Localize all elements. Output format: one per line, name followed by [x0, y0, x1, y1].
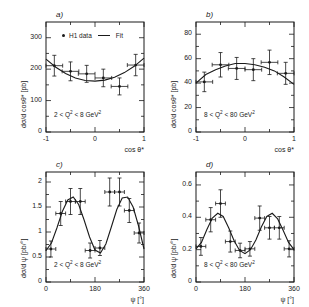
panel-a-data-point [127, 54, 144, 75]
panel-c-ytick: 1 [38, 227, 42, 234]
panel-a-y-axis-title: dσ/d cosθ* [pb] [20, 81, 27, 128]
panel-a-data-point [46, 55, 63, 76]
panel-b-xtick: 1 [292, 135, 296, 142]
panel-c-data-point [105, 178, 115, 206]
panel-c-ytick: 0 [38, 277, 42, 284]
panel-c-y-axis-title: dσ/d ψ [pb/°] [20, 239, 27, 278]
panel-d-label: d) [206, 160, 213, 169]
panel-b-ytick: 60 [184, 54, 192, 61]
panel-d-data-point [225, 231, 235, 252]
legend-fit-label: Fit [116, 32, 123, 39]
panel-d-ytick: 0.2 [182, 245, 192, 252]
panel-b-data-point [212, 53, 229, 77]
panel-c-data-point [46, 241, 56, 257]
panel-d-data-point [265, 216, 275, 239]
panel-c-xtick: 0 [44, 285, 48, 292]
panel-c-label: c) [56, 160, 63, 169]
panel-d-data-point [206, 208, 216, 232]
legend-marker-icon [62, 34, 65, 37]
panel-c-fit-curve [46, 197, 144, 253]
panel-d-ytick: 0 [188, 277, 192, 284]
panel-b-ytick: 40 [184, 78, 192, 85]
panel-a-data-point [95, 69, 112, 87]
panel-a-xtick: 0 [93, 135, 97, 142]
panel-b-ytick: 80 [184, 29, 192, 36]
panel-a-ytick: 300 [30, 33, 42, 40]
panel-d-ytick: 0.6 [182, 180, 192, 187]
panel-b-xtick: 0 [243, 135, 247, 142]
panel-d-xtick: 360 [288, 285, 300, 292]
panel-b-y-axis-title: dσ/d cosθ* [pb] [170, 81, 177, 128]
panel-d-cut-annotation: 8 < Q2 < 80 GeV2 [204, 260, 255, 268]
panel-d-plot [0, 0, 309, 307]
legend: H1 dataFit [62, 32, 123, 39]
panel-c-data-point [134, 223, 144, 243]
panel-a-label: a) [56, 10, 63, 19]
panel-c-data-point [85, 243, 95, 258]
panel-c-data-point [124, 199, 134, 223]
panel-d-data-point [284, 241, 294, 257]
panel-c-ytick: 0.5 [32, 252, 42, 259]
panel-b-ytick: 0 [188, 127, 192, 134]
panel-d-data-point [274, 216, 284, 239]
panel-c-xtick: 180 [89, 285, 101, 292]
panel-a-ytick: 100 [30, 96, 42, 103]
panel-a-data-point [78, 65, 95, 82]
panel-c-ytick: 1.5 [32, 202, 42, 209]
panel-b-data-point [196, 72, 213, 92]
legend-data-label: H1 data [69, 32, 92, 39]
panel-d-data-point [216, 190, 226, 218]
panel-b-fit-curve [196, 64, 294, 85]
legend-line-icon [98, 35, 110, 36]
panel-a-xtick: 1 [142, 135, 146, 142]
panel-c-data-point [75, 189, 85, 215]
panel-a-fit-curve [46, 58, 144, 81]
panel-a-xtick: -1 [43, 135, 49, 142]
panel-c-xtick: 360 [138, 285, 150, 292]
panel-c-data-point [66, 189, 76, 215]
panel-a-x-axis-title: cos θ* [125, 146, 144, 153]
panel-b-data-point [228, 57, 245, 79]
panel-d-ytick: 0.4 [182, 212, 192, 219]
panel-a-cut-annotation: 2 < Q2 < 8 GeV2 [54, 110, 101, 118]
panel-c-data-point [115, 178, 125, 206]
figure-root: 0100200300-101a)2 < Q2 < 8 GeV2dσ/d cosθ… [0, 0, 309, 307]
panel-d-data-point [245, 242, 255, 257]
panel-a-data-point [62, 62, 79, 81]
panel-c-data-point [95, 241, 105, 256]
panel-b-cut-annotation: 8 < Q2 < 80 GeV2 [204, 110, 255, 118]
panel-d-x-axis-title: ψ [°] [280, 296, 294, 303]
panel-c-data-point [56, 202, 66, 226]
panel-b-data-point [245, 59, 262, 81]
panel-a-ytick: 0 [38, 127, 42, 134]
panel-c-ytick: 2 [38, 177, 42, 184]
panel-b-xtick: -1 [193, 135, 199, 142]
panel-c-cut-annotation: 2 < Q2 < 8 GeV2 [54, 260, 101, 268]
panel-b-data-point [277, 62, 294, 84]
panel-c-plot [0, 0, 309, 307]
panel-d-fit-curve [196, 213, 294, 253]
panel-d-data-point [235, 243, 245, 258]
panel-b-ytick: 20 [184, 103, 192, 110]
panel-b-x-axis-title: cos θ* [275, 146, 294, 153]
panel-a-ytick: 200 [30, 64, 42, 71]
panel-d-y-axis-title: dσ/d ψ [pb/°] [170, 239, 177, 278]
panel-d-xtick: 180 [239, 285, 251, 292]
panel-b-data-point [261, 50, 278, 74]
panel-d-xtick: 0 [194, 285, 198, 292]
panel-b-plot [0, 0, 309, 307]
panel-c-x-axis-title: ψ [°] [130, 296, 144, 303]
panel-d-data-point [255, 206, 265, 230]
panel-a-plot [0, 0, 309, 307]
panel-a-data-point [111, 78, 128, 95]
panel-b-label: b) [206, 10, 213, 19]
panel-d-data-point [196, 238, 206, 256]
